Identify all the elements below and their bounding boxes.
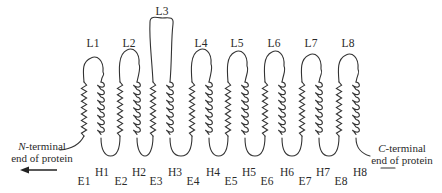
arrow-head-icon bbox=[20, 167, 29, 174]
h-segment-5 bbox=[242, 82, 249, 135]
c-terminal-italic: C bbox=[378, 142, 385, 154]
h-segment-2 bbox=[134, 82, 141, 135]
turn-1 bbox=[101, 136, 120, 156]
turn-3 bbox=[170, 136, 192, 156]
segment-label-h8: H8 bbox=[353, 166, 367, 178]
turn-4 bbox=[209, 136, 228, 156]
loop-l8 bbox=[338, 54, 358, 82]
segment-label-h7: H7 bbox=[316, 166, 330, 178]
h-segment-1 bbox=[98, 82, 105, 135]
segment-label-e8: E8 bbox=[335, 175, 348, 187]
segment-label-e5: E5 bbox=[225, 175, 238, 187]
loop-l3 bbox=[150, 17, 173, 82]
n-terminal-line2: end of protein bbox=[8, 152, 76, 164]
h-segment-7 bbox=[316, 82, 323, 135]
h-segment-8 bbox=[353, 82, 360, 135]
loop-label-l8: L8 bbox=[342, 37, 355, 49]
n-terminal-arrow bbox=[20, 167, 57, 174]
n-terminal-text: -terminal bbox=[26, 140, 66, 152]
loop-l1 bbox=[83, 57, 103, 82]
n-terminal-label: N-terminal end of protein bbox=[8, 140, 76, 164]
turn-2 bbox=[137, 136, 153, 156]
loop-l5 bbox=[227, 51, 247, 82]
loop-l6 bbox=[264, 51, 284, 82]
segment-label-h2: H2 bbox=[132, 166, 146, 178]
e-segment-4 bbox=[189, 82, 194, 136]
loop-label-l7: L7 bbox=[305, 37, 318, 49]
segment-label-e4: E4 bbox=[187, 175, 200, 187]
h-segment-4 bbox=[206, 82, 213, 135]
n-terminal-italic: N bbox=[18, 140, 25, 152]
loop-l2 bbox=[119, 49, 139, 82]
loop-l7 bbox=[301, 54, 321, 82]
segment-label-e1: E1 bbox=[78, 175, 91, 187]
segment-label-e2: E2 bbox=[115, 175, 128, 187]
e-segment-5 bbox=[225, 82, 230, 136]
loop-label-l2: L2 bbox=[123, 37, 136, 49]
segment-label-e6: E6 bbox=[261, 175, 274, 187]
segment-label-e7: E7 bbox=[299, 175, 312, 187]
e-segment-6 bbox=[262, 82, 267, 136]
segment-label-e3: E3 bbox=[150, 175, 163, 187]
turn-6 bbox=[282, 136, 302, 156]
h-segment-3 bbox=[167, 82, 174, 135]
c-terminal-text: -terminal bbox=[386, 142, 426, 154]
e-segment-8 bbox=[336, 82, 341, 136]
turn-7 bbox=[319, 136, 339, 156]
e-segment-1 bbox=[81, 82, 86, 136]
loop-label-l3: L3 bbox=[156, 5, 169, 17]
c-terminal-label: C-terminal end of protein bbox=[368, 142, 436, 166]
segment-label-h1: H1 bbox=[95, 166, 109, 178]
segment-label-h3: H3 bbox=[168, 166, 182, 178]
segment-label-h5: H5 bbox=[242, 166, 256, 178]
e-segment-2 bbox=[117, 82, 122, 136]
loop-label-l1: L1 bbox=[87, 37, 100, 49]
h-segment-6 bbox=[279, 82, 286, 135]
loop-l4 bbox=[191, 49, 211, 82]
segment-label-h6: H6 bbox=[280, 166, 294, 178]
e-segment-7 bbox=[299, 82, 304, 136]
loop-label-l6: L6 bbox=[268, 37, 281, 49]
loop-label-l4: L4 bbox=[195, 37, 208, 49]
e-segment-3 bbox=[150, 82, 155, 136]
turn-5 bbox=[245, 136, 265, 156]
c-terminal-line2: end of protein bbox=[368, 154, 436, 166]
loop-label-l5: L5 bbox=[231, 37, 244, 49]
segment-label-h4: H4 bbox=[206, 166, 220, 178]
